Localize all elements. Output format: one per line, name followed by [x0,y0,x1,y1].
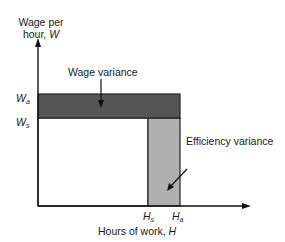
x-axis-arrow-icon [242,203,251,209]
y-tick-wa-sub: a [26,98,30,105]
y-tick-wa-base: W [16,92,26,104]
x-tick-ha-base: H [172,210,180,222]
wage-variance-region [38,94,180,118]
y-axis-label-line1: Wage per [16,16,66,28]
efficiency-variance-region [148,118,180,206]
x-axis-symbol: H [169,225,177,237]
x-tick-hs-sub: s [151,216,155,223]
wage-variance-label: Wage variance [68,66,138,78]
x-tick-hs-base: H [143,210,151,222]
standard-cost-region [38,118,148,206]
y-tick-wa: Wa [16,92,30,108]
x-axis-label-text: Hours of work, [98,225,169,237]
y-axis-label: Wage per hour, W [16,16,66,40]
x-tick-hs: Hs [143,210,154,226]
x-tick-ha: Ha [172,210,184,226]
x-axis-label: Hours of work, H [98,225,176,237]
x-tick-ha-sub: a [180,216,184,223]
y-tick-ws-sub: s [26,122,30,129]
y-axis-label-line2: hour, W [16,28,66,40]
efficiency-variance-label: Efficiency variance [186,135,273,147]
y-axis-label-text: hour, [23,28,49,40]
y-tick-ws: Ws [16,116,29,132]
y-tick-ws-base: W [16,116,26,128]
y-axis-symbol: W [49,28,59,40]
